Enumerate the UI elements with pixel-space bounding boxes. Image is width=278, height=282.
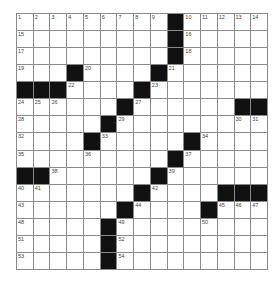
grid-cell[interactable] — [201, 151, 218, 168]
grid-cell[interactable] — [218, 65, 235, 82]
grid-cell[interactable] — [168, 185, 185, 202]
grid-cell[interactable]: 53 — [17, 253, 34, 270]
grid-cell[interactable] — [235, 82, 252, 99]
grid-cell[interactable] — [218, 133, 235, 150]
grid-cell[interactable] — [117, 65, 134, 82]
grid-cell[interactable]: 30 — [235, 116, 252, 133]
grid-cell[interactable] — [201, 99, 218, 116]
grid-cell[interactable]: 36 — [84, 151, 101, 168]
grid-cell[interactable]: 50 — [201, 219, 218, 236]
grid-cell[interactable]: 31 — [251, 116, 268, 133]
grid-cell[interactable] — [251, 253, 268, 270]
grid-cell[interactable] — [84, 99, 101, 116]
grid-cell[interactable] — [101, 65, 118, 82]
grid-cell[interactable] — [151, 253, 168, 270]
grid-cell[interactable] — [117, 133, 134, 150]
grid-cell[interactable]: 37 — [184, 151, 201, 168]
grid-cell[interactable] — [117, 31, 134, 48]
grid-cell[interactable]: 51 — [17, 236, 34, 253]
grid-cell[interactable]: 2 — [34, 14, 51, 31]
grid-cell[interactable] — [50, 236, 67, 253]
grid-cell[interactable]: 35 — [17, 151, 34, 168]
grid-cell[interactable] — [84, 185, 101, 202]
grid-cell[interactable] — [218, 253, 235, 270]
grid-cell[interactable]: 9 — [151, 14, 168, 31]
grid-cell[interactable]: 44 — [134, 202, 151, 219]
grid-cell[interactable] — [184, 82, 201, 99]
grid-cell[interactable] — [251, 31, 268, 48]
grid-cell[interactable]: 12 — [218, 14, 235, 31]
grid-cell[interactable] — [134, 133, 151, 150]
grid-cell[interactable]: 45 — [218, 202, 235, 219]
grid-cell[interactable] — [117, 151, 134, 168]
grid-cell[interactable]: 18 — [184, 48, 201, 65]
grid-cell[interactable] — [101, 82, 118, 99]
grid-cell[interactable] — [168, 236, 185, 253]
grid-cell[interactable] — [84, 236, 101, 253]
grid-cell[interactable] — [117, 48, 134, 65]
grid-cell[interactable] — [151, 133, 168, 150]
grid-cell[interactable] — [134, 116, 151, 133]
grid-cell[interactable] — [117, 82, 134, 99]
grid-cell[interactable]: 34 — [201, 133, 218, 150]
grid-cell[interactable] — [151, 202, 168, 219]
grid-cell[interactable]: 7 — [117, 14, 134, 31]
grid-cell[interactable] — [117, 168, 134, 185]
grid-cell[interactable] — [184, 185, 201, 202]
grid-cell[interactable] — [67, 168, 84, 185]
grid-cell[interactable] — [218, 219, 235, 236]
grid-cell[interactable] — [235, 219, 252, 236]
grid-cell[interactable] — [84, 202, 101, 219]
grid-cell[interactable] — [251, 65, 268, 82]
grid-cell[interactable] — [251, 82, 268, 99]
grid-cell[interactable]: 13 — [235, 14, 252, 31]
grid-cell[interactable] — [67, 185, 84, 202]
grid-cell[interactable] — [84, 116, 101, 133]
grid-cell[interactable] — [235, 236, 252, 253]
grid-cell[interactable] — [134, 151, 151, 168]
grid-cell[interactable]: 6 — [101, 14, 118, 31]
grid-cell[interactable] — [151, 48, 168, 65]
grid-cell[interactable] — [218, 116, 235, 133]
grid-cell[interactable]: 3 — [50, 14, 67, 31]
grid-cell[interactable] — [34, 219, 51, 236]
grid-cell[interactable]: 42 — [151, 185, 168, 202]
grid-cell[interactable] — [67, 48, 84, 65]
grid-cell[interactable]: 29 — [117, 116, 134, 133]
grid-cell[interactable] — [218, 82, 235, 99]
grid-cell[interactable] — [184, 236, 201, 253]
grid-cell[interactable] — [134, 65, 151, 82]
grid-cell[interactable]: 25 — [34, 99, 51, 116]
grid-cell[interactable]: 17 — [17, 48, 34, 65]
grid-cell[interactable]: 20 — [84, 65, 101, 82]
grid-cell[interactable]: 22 — [67, 82, 84, 99]
grid-cell[interactable] — [201, 168, 218, 185]
grid-cell[interactable]: 49 — [117, 219, 134, 236]
grid-cell[interactable]: 46 — [235, 202, 252, 219]
grid-cell[interactable] — [50, 185, 67, 202]
grid-cell[interactable]: 14 — [251, 14, 268, 31]
grid-cell[interactable]: 47 — [251, 202, 268, 219]
grid-cell[interactable]: 15 — [17, 31, 34, 48]
grid-cell[interactable] — [101, 151, 118, 168]
grid-cell[interactable] — [134, 219, 151, 236]
grid-cell[interactable] — [134, 168, 151, 185]
grid-cell[interactable] — [50, 116, 67, 133]
grid-cell[interactable] — [184, 99, 201, 116]
grid-cell[interactable]: 27 — [134, 99, 151, 116]
grid-cell[interactable]: 52 — [117, 236, 134, 253]
grid-cell[interactable] — [34, 31, 51, 48]
grid-cell[interactable] — [184, 65, 201, 82]
grid-cell[interactable] — [117, 185, 134, 202]
grid-cell[interactable] — [101, 48, 118, 65]
grid-cell[interactable] — [235, 31, 252, 48]
grid-cell[interactable] — [184, 168, 201, 185]
grid-cell[interactable]: 4 — [67, 14, 84, 31]
grid-cell[interactable] — [50, 151, 67, 168]
grid-cell[interactable] — [67, 219, 84, 236]
grid-cell[interactable] — [134, 48, 151, 65]
grid-cell[interactable]: 19 — [17, 65, 34, 82]
grid-cell[interactable] — [84, 219, 101, 236]
grid-cell[interactable] — [151, 219, 168, 236]
grid-cell[interactable]: 54 — [117, 253, 134, 270]
